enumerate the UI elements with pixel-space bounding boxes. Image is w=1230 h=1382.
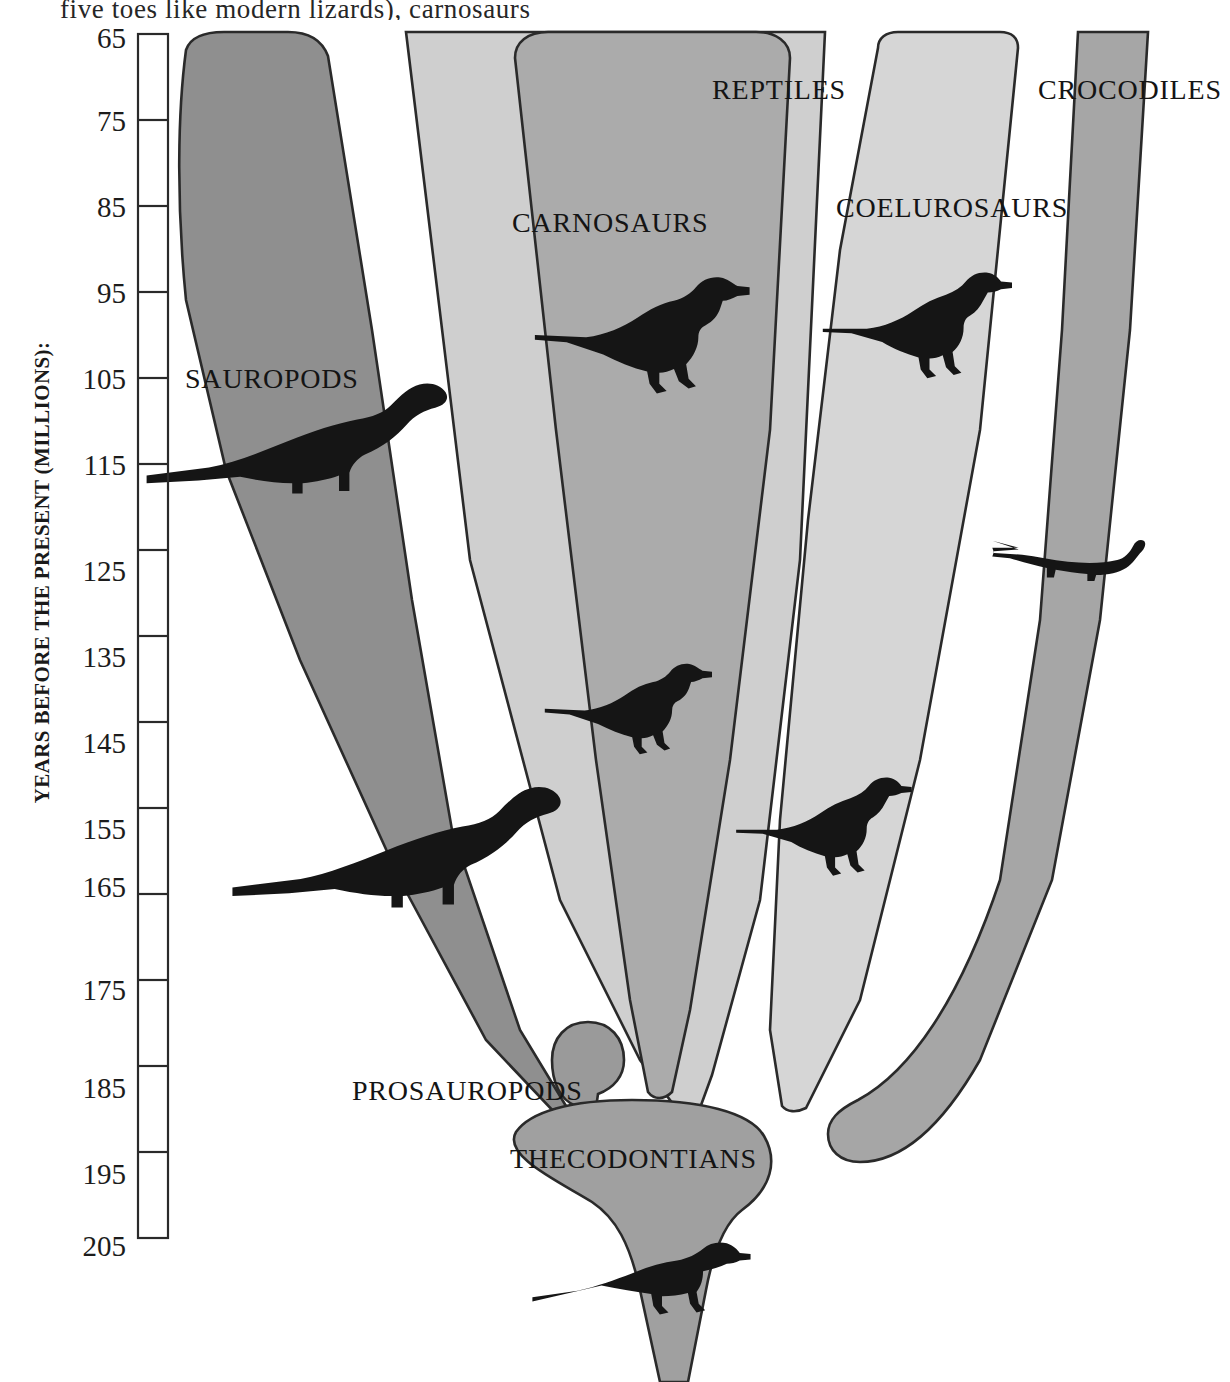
tick-185: 185: [83, 1072, 127, 1104]
tick-145: 145: [83, 727, 127, 759]
y-axis: 65 75 85 95 105 115 125 135 145 155 165 …: [83, 22, 169, 1262]
axis-rungs: [138, 120, 168, 1152]
tick-75: 75: [97, 105, 126, 137]
label-reptiles: REPTILES: [712, 74, 846, 105]
label-coelurosaurs: COELUROSAURS: [836, 192, 1068, 223]
figure-canvas: five toes like modern lizards), carnosau…: [0, 0, 1230, 1382]
tick-115: 115: [84, 449, 126, 481]
phylogeny-diagram: SAUROPODS CARNOSAURS REPTILES COELUROSAU…: [0, 0, 1230, 1382]
tick-175: 175: [83, 974, 127, 1006]
label-thecodontians: THECODONTIANS: [510, 1143, 757, 1174]
tick-125: 125: [83, 555, 127, 587]
tick-205: 205: [83, 1230, 127, 1262]
tick-65: 65: [97, 22, 126, 54]
label-crocodiles: CROCODILES: [1038, 74, 1222, 105]
tick-105: 105: [83, 363, 127, 395]
tick-85: 85: [97, 191, 126, 223]
tick-135: 135: [83, 641, 127, 673]
label-sauropods: SAUROPODS: [185, 363, 359, 394]
label-prosauropods: PROSAUROPODS: [352, 1075, 583, 1106]
tick-155: 155: [83, 813, 127, 845]
axis-tick-labels: 65 75 85 95 105 115 125 135 145 155 165 …: [83, 22, 127, 1262]
label-carnosaurs: CARNOSAURS: [512, 207, 708, 238]
tick-165: 165: [83, 871, 127, 903]
tick-95: 95: [97, 277, 126, 309]
tick-195: 195: [83, 1158, 127, 1190]
